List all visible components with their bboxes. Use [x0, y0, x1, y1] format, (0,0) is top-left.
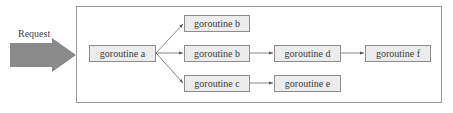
request-arrow-icon: [10, 38, 76, 72]
node-goroutine-f: goroutine f: [365, 45, 431, 62]
node-goroutine-a: goroutine a: [89, 45, 156, 62]
node-goroutine-b1: goroutine b: [184, 15, 250, 32]
node-goroutine-d: goroutine d: [274, 45, 341, 62]
node-goroutine-e: goroutine e: [274, 75, 341, 92]
node-goroutine-c: goroutine c: [184, 75, 250, 92]
node-goroutine-b2: goroutine b: [184, 45, 250, 62]
